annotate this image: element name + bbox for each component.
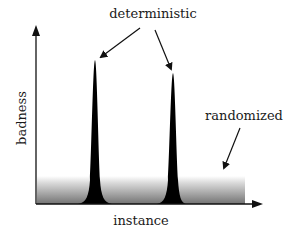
deterministic-arrow-2 <box>155 30 171 69</box>
deterministic-arrow-1 <box>101 28 140 57</box>
badness-vs-instance-diagram: deterministic randomized badness instanc… <box>0 0 291 238</box>
x-axis-arrowhead-icon <box>252 200 263 208</box>
randomized-label: randomized <box>205 108 283 123</box>
x-axis-label: instance <box>113 213 169 228</box>
y-axis-label: badness <box>14 91 29 145</box>
randomized-band <box>37 176 245 204</box>
deterministic-label: deterministic <box>109 6 197 21</box>
y-axis-arrowhead-icon <box>32 25 40 36</box>
randomized-arrow <box>224 128 240 168</box>
